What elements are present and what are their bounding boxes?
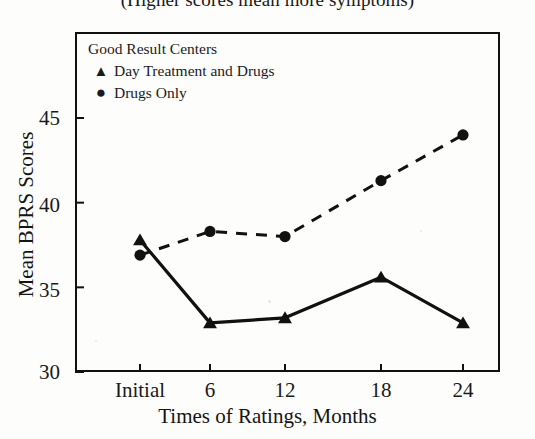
scan-speck — [95, 340, 97, 342]
x-axis-title: Times of Ratings, Months — [0, 404, 535, 429]
scan-speck — [268, 300, 271, 303]
y-tick-label-40: 40 — [14, 193, 60, 218]
chart-legend: Good Result Centers ▲ Day Treatment and … — [88, 38, 275, 103]
scan-speck — [150, 96, 152, 98]
y-tick-label-45: 45 — [14, 106, 60, 131]
y-tick-label-30: 30 — [14, 360, 60, 385]
x-tick-label-initial: Initial — [115, 378, 165, 403]
x-tick-label-6: 6 — [205, 378, 216, 403]
y-tick-label-35: 35 — [14, 278, 60, 303]
circle-marker-icon: ● — [88, 84, 114, 101]
legend-item-drugs-only: ● Drugs Only — [88, 82, 275, 103]
legend-item-label: Drugs Only — [114, 82, 187, 103]
x-tick-label-12: 12 — [275, 378, 296, 403]
chart-title: (Higher scores mean more symptoms) — [0, 0, 535, 11]
legend-item-label: Day Treatment and Drugs — [114, 60, 275, 81]
x-tick-label-18: 18 — [371, 378, 392, 403]
scan-speck — [420, 230, 422, 232]
legend-item-day-treatment-and-drugs: ▲ Day Treatment and Drugs — [88, 60, 275, 81]
triangle-marker-icon: ▲ — [88, 64, 114, 79]
x-tick-label-24: 24 — [453, 378, 474, 403]
legend-title: Good Result Centers — [88, 38, 275, 59]
chart-figure: (Higher scores mean more symptoms) Mean … — [0, 0, 535, 439]
